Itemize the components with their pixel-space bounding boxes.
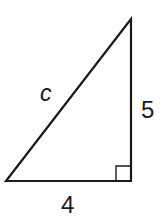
right-triangle-diagram: c 5 4 [0,0,168,217]
triangle [6,19,131,181]
hypotenuse-label: c [40,80,52,106]
vertical-leg-label: 5 [141,96,154,123]
right-angle-marker [116,166,131,181]
horizontal-leg-label: 4 [61,191,74,217]
